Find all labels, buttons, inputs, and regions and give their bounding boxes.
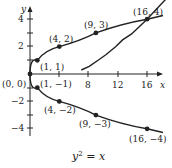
x-tick-16: 16 (141, 80, 153, 90)
x-tick-12: 12 (112, 80, 123, 90)
caption-rhs: = x (83, 150, 106, 163)
point-label-4-m2: (4, −2) (44, 105, 76, 115)
x-tick-8: 8 (85, 80, 91, 90)
point-label-0-0: (0, 0) (2, 79, 26, 89)
y-axis-label: y (20, 4, 27, 14)
parabola-chart: 8 12 16 x 4 2 −2 −4 y (0, 0) (1, 1) (4, … (0, 0, 172, 168)
x-axis-arrow-icon (157, 72, 163, 77)
y-tick-4: 4 (18, 14, 24, 24)
x-axis-label: x (160, 80, 165, 90)
point-label-16-m4: (16, −4) (129, 134, 166, 144)
point-label-1-1: (1, 1) (40, 62, 64, 72)
point-label-1-m1: (1, −1) (40, 79, 72, 89)
y-axis-arrow-icon (28, 6, 33, 12)
point-label-4-2: (4, 2) (49, 34, 73, 44)
point-label-9-3: (9, 3) (84, 20, 108, 30)
y-tick-m4: −4 (11, 123, 25, 133)
chart-caption: y2 = x (71, 150, 106, 163)
point-label-16-4: (16, 4) (133, 7, 163, 17)
y-tick-2: 2 (18, 41, 24, 51)
point-label-9-m3: (9, −3) (79, 119, 111, 129)
y-tick-m2: −2 (11, 96, 24, 106)
